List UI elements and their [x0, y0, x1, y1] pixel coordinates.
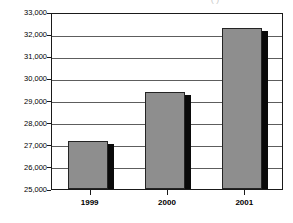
bar-body: [145, 92, 185, 189]
bar-shadow: [262, 31, 268, 189]
plot-area: [51, 13, 283, 190]
x-axis-tick-label: 2001: [214, 198, 274, 208]
y-axis-ticks: [0, 13, 51, 190]
bar-shadow: [108, 144, 114, 189]
bar-chart-figure: ( ) 25,00026,00027,00028,00029,00030,000…: [0, 0, 293, 223]
x-axis-tick-mark: [90, 190, 91, 195]
bar-shadow: [185, 95, 191, 189]
bar-body: [68, 141, 108, 189]
x-axis-labels: 199920002001: [51, 198, 283, 210]
chart-title-cropped: ( ): [150, 0, 280, 5]
x-axis-tick-label: 2000: [137, 198, 197, 208]
chart-title-text: ( ): [150, 0, 280, 4]
bar-2000: [145, 14, 191, 189]
bar-1999: [68, 14, 114, 189]
x-axis-ticks: [51, 190, 283, 196]
bar-2001: [222, 14, 268, 189]
x-axis-tick-mark: [244, 190, 245, 195]
x-axis-tick-label: 1999: [60, 198, 120, 208]
x-axis-tick-mark: [167, 190, 168, 195]
bar-body: [222, 28, 262, 189]
